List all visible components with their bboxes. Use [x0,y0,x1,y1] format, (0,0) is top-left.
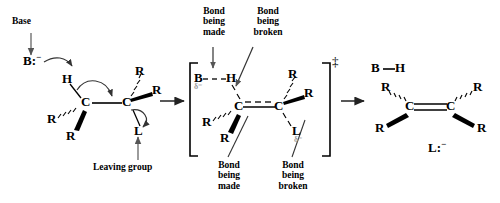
reactant-r-left-wedge: R [66,129,75,143]
ts-partial-bond-h-c [232,85,240,99]
base-atom-symbol: B: [23,53,36,68]
reactant-r-right-wedge: R [152,83,161,97]
transition-state-dagger: ‡ [332,55,339,69]
ts-r-right-wedge: R [304,86,313,100]
reactant-base-atom: B:− [23,53,41,68]
pointer-bond-broken-top [236,47,253,86]
product-base-atom: B [371,61,380,75]
ts-leaving-delta-charge: δ⁻ [294,136,302,145]
bond-made-top-label: Bond being made [192,6,236,37]
product-leaving-anion: L:− [428,140,446,155]
curved-arrow-base-to-h [44,58,72,66]
ts-carbon-right: C [274,99,283,113]
bond-broken-top-label: Bond being broken [244,6,292,37]
ts-partial-double-bond [243,102,275,107]
bond-broken-bottom-label: Bond being broken [268,160,318,191]
product-double-bond [414,104,447,110]
reactant-r-left-dashed: R [47,112,56,126]
product-r-bottom-right: R [477,121,486,135]
bond-made-bottom-label: Bond being made [206,160,252,191]
product-hashed-bonds [389,91,472,101]
ts-partial-bond-c-l [283,113,291,126]
product-carbon-right: C [446,99,455,113]
base-label: Base [12,16,31,26]
ts-hydrogen: H [226,71,236,85]
transition-state-bracket-right [322,63,330,156]
product-hydrogen: H [395,61,405,75]
reactant-carbon-right: C [122,95,131,109]
ts-r-left-dashed: R [202,115,211,129]
product-r-bottom-left: R [375,121,384,135]
leaving-group-label: Leaving group [93,162,152,172]
product-wedge-bonds [386,113,475,128]
ts-r-left-wedge: R [220,131,229,145]
reaction-mechanism-diagram: Base B:− H C C R R R R L Leaving group B… [0,0,500,203]
leaving-anion-charge: − [441,139,446,149]
reactant-leaving-group-atom: L [134,124,143,138]
reactant-hydrogen: H [62,72,72,86]
base-charge: − [36,52,41,62]
product-carbon-left: C [405,99,414,113]
reactant-carbon-left: C [81,95,90,109]
reactant-r-right-dashed: R [135,64,144,78]
ts-carbon-left: C [234,99,243,113]
product-r-top-left: R [381,80,390,94]
product-r-top-right: R [473,80,482,94]
leaving-anion-symbol: L: [428,140,441,155]
ts-r-right-dashed: R [288,67,297,81]
ts-base-delta-charge: δ⁻ [194,83,202,92]
